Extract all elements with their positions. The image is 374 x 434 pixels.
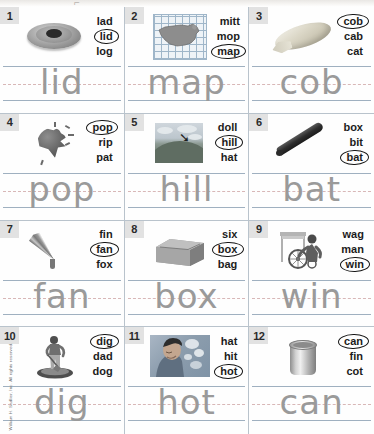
choice-option-selected[interactable]: map bbox=[212, 44, 245, 59]
traced-word: win bbox=[252, 273, 371, 319]
choice-list[interactable]: pop rip pat bbox=[87, 120, 122, 165]
choice-option[interactable]: bit bbox=[345, 135, 368, 150]
choice-option[interactable]: mitt bbox=[215, 14, 245, 29]
worksheet-item-1[interactable]: 1 lad lid log lid bbox=[0, 7, 125, 114]
item-number: 11 bbox=[125, 327, 144, 344]
traced-word: hill bbox=[128, 166, 246, 212]
choice-option[interactable]: pat bbox=[91, 150, 118, 165]
choice-option-selected[interactable]: hot bbox=[215, 364, 242, 379]
choice-option[interactable]: mop bbox=[212, 29, 245, 44]
choice-option[interactable]: doll bbox=[213, 120, 243, 135]
choice-option[interactable]: wag bbox=[338, 227, 369, 242]
choice-option[interactable]: cot bbox=[341, 364, 368, 379]
choice-list[interactable]: mitt mop map bbox=[212, 14, 249, 59]
worksheet-item-6[interactable]: 6 box bit bat bat bbox=[249, 114, 374, 221]
item-number: 4 bbox=[0, 114, 19, 131]
choice-option[interactable]: dad bbox=[88, 349, 118, 364]
choice-option-selected[interactable]: dig bbox=[91, 334, 118, 349]
choice-option-selected[interactable]: can bbox=[339, 334, 368, 349]
item-header: six box bag bbox=[144, 223, 247, 277]
choice-option[interactable]: cab bbox=[339, 29, 368, 44]
worksheet-item-3[interactable]: 3 cob cab cat cob bbox=[249, 7, 374, 114]
writing-lines: lid bbox=[3, 64, 121, 108]
choice-option[interactable]: dog bbox=[87, 364, 117, 379]
worksheet-item-10[interactable]: 10 dig bbox=[0, 327, 125, 434]
baseball-bat-icon bbox=[270, 118, 336, 168]
box-shape bbox=[152, 235, 208, 269]
worksheet-item-4[interactable]: 4 pop rip pat bbox=[0, 114, 125, 221]
choice-option[interactable]: lad bbox=[92, 14, 118, 29]
traced-word: fan bbox=[3, 273, 121, 319]
worksheet-item-5[interactable]: 5 ➘ doll hill bbox=[125, 114, 250, 221]
digging-person-shape bbox=[31, 333, 79, 379]
choice-option[interactable]: cat bbox=[342, 44, 368, 59]
worksheet-item-7[interactable]: 7 fin fan fox fan bbox=[0, 221, 125, 328]
choice-list[interactable]: dig dad dog bbox=[87, 334, 122, 379]
choice-option[interactable]: box bbox=[338, 120, 368, 135]
wheelchair-racer-shape bbox=[276, 228, 334, 272]
item-header: ➘ doll hill hat bbox=[144, 116, 247, 170]
choice-list[interactable]: doll hill hat bbox=[212, 120, 247, 165]
traced-word: pop bbox=[3, 166, 121, 212]
choice-option[interactable]: fin bbox=[94, 227, 117, 242]
traced-word: can bbox=[252, 379, 371, 425]
hot-person-icon bbox=[146, 331, 212, 381]
choice-list[interactable]: cob cab cat bbox=[336, 14, 372, 59]
choice-option[interactable]: hat bbox=[216, 334, 243, 349]
traced-word: cob bbox=[252, 59, 371, 105]
copyright-notice: William H. Sadlier, Inc. All rights rese… bbox=[8, 339, 13, 434]
item-number: 8 bbox=[125, 221, 144, 238]
choice-option[interactable]: hat bbox=[216, 150, 243, 165]
choice-option-selected[interactable]: pop bbox=[87, 120, 117, 135]
item-header: cob cab cat bbox=[268, 9, 372, 63]
cardboard-box-icon bbox=[146, 225, 212, 275]
choice-option-selected[interactable]: fan bbox=[91, 242, 118, 257]
choice-option[interactable]: man bbox=[336, 242, 369, 257]
writing-lines: hot bbox=[128, 384, 246, 428]
worksheet-item-8[interactable]: 8 six box bag bbox=[125, 221, 250, 328]
choice-option[interactable]: six bbox=[217, 227, 242, 242]
choice-option[interactable]: fox bbox=[91, 257, 118, 272]
choice-option-selected[interactable]: cob bbox=[338, 14, 368, 29]
writing-lines: box bbox=[128, 278, 246, 322]
choice-option[interactable]: rip bbox=[94, 135, 118, 150]
writing-lines: pop bbox=[3, 171, 121, 215]
choice-option[interactable]: hit bbox=[219, 349, 242, 364]
worksheet-item-12[interactable]: 12 can fin cot can bbox=[249, 327, 374, 434]
choice-list[interactable]: hat hit hot bbox=[212, 334, 247, 379]
wheelchair-racer-icon bbox=[270, 225, 336, 275]
choice-option-selected[interactable]: bat bbox=[341, 150, 368, 165]
choice-list[interactable]: lad lid log bbox=[87, 14, 122, 59]
traced-word: map bbox=[128, 59, 246, 105]
choice-option-selected[interactable]: hill bbox=[216, 135, 242, 150]
item-header: wag man win bbox=[268, 223, 372, 277]
digging-person-icon bbox=[21, 331, 87, 381]
hand-fan-icon bbox=[21, 225, 87, 275]
choice-option-selected[interactable]: lid bbox=[95, 29, 118, 44]
hot-person-shape bbox=[150, 335, 210, 377]
worksheet-item-11[interactable]: 11 bbox=[125, 327, 250, 434]
choice-option[interactable]: fin bbox=[345, 349, 368, 364]
worksheet-item-2[interactable]: 2 mitt mop map bbox=[125, 7, 250, 114]
choice-list[interactable]: wag man win bbox=[336, 227, 373, 272]
choice-list[interactable]: fin fan fox bbox=[87, 227, 122, 272]
lid-icon bbox=[21, 11, 87, 61]
corn-cob-icon bbox=[270, 11, 336, 61]
choice-list[interactable]: can fin cot bbox=[336, 334, 372, 379]
choice-list[interactable]: box bit bat bbox=[336, 120, 372, 165]
item-number: 3 bbox=[249, 7, 268, 24]
scan-edge bbox=[0, 0, 374, 7]
traced-word: box bbox=[128, 273, 246, 319]
choice-option-selected[interactable]: box bbox=[213, 242, 243, 257]
worksheet-item-9[interactable]: 9 bbox=[249, 221, 374, 328]
choice-list[interactable]: six box bag bbox=[212, 227, 247, 272]
item-header: lad lid log bbox=[19, 9, 122, 63]
popping-balloon-icon bbox=[21, 118, 87, 168]
item-header: hat hit hot bbox=[144, 329, 247, 383]
choice-option-selected[interactable]: win bbox=[341, 257, 369, 272]
choice-option[interactable]: bag bbox=[213, 257, 243, 272]
choice-option[interactable]: log bbox=[91, 44, 118, 59]
writing-lines: bat bbox=[252, 171, 371, 215]
item-number: 12 bbox=[249, 327, 268, 344]
item-number: 2 bbox=[125, 7, 144, 24]
